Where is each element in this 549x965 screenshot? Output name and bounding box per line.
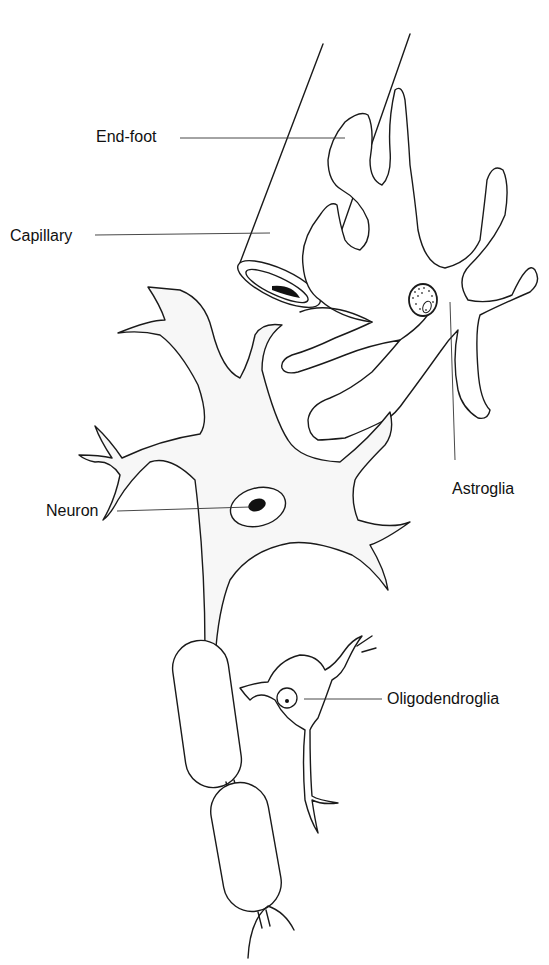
label-end-foot: End-foot — [96, 128, 156, 146]
leader-capillary — [95, 233, 270, 235]
label-oligodendroglia: Oligodendroglia — [387, 690, 499, 708]
diagram-canvas: End-foot Capillary Neuron Astroglia Olig… — [0, 0, 549, 965]
label-neuron: Neuron — [46, 502, 98, 520]
astroglia — [282, 88, 538, 440]
label-astroglia: Astroglia — [452, 480, 514, 498]
label-capillary: Capillary — [10, 227, 72, 245]
